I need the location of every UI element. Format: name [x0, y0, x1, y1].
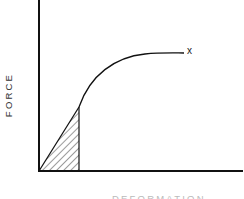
- x-axis-label: DEFORMATION: [112, 193, 206, 199]
- failure-point-marker: x: [187, 45, 192, 56]
- force-deformation-diagram: x FORCE DEFORMATION: [0, 0, 244, 199]
- y-axis-label: FORCE: [3, 73, 14, 117]
- diagram-canvas: [0, 0, 244, 199]
- nonlinear-curve: [79, 53, 184, 107]
